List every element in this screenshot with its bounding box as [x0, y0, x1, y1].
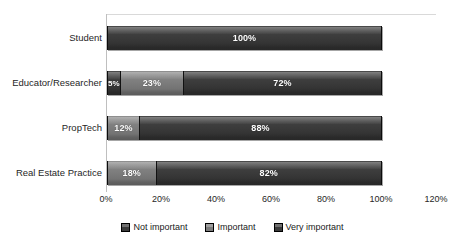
segment-value-label: 88%	[251, 123, 269, 133]
bar-track: 5%23%72%	[107, 71, 382, 95]
x-axis-tick-label: 20%	[152, 194, 170, 204]
category-axis: StudentEducator/ResearcherPropTechReal E…	[0, 14, 102, 192]
legend-swatch-icon	[205, 223, 214, 232]
bar-track: 12%88%	[107, 116, 382, 140]
bar-row: 18%82%	[107, 161, 382, 185]
category-label: Educator/Researcher	[2, 77, 102, 88]
x-axis-tick-label: 60%	[262, 194, 280, 204]
legend-label: Very important	[286, 222, 344, 232]
x-axis-tick-label: 100%	[369, 194, 392, 204]
category-label: Real Estate Practice	[2, 167, 102, 178]
legend-label: Important	[217, 222, 255, 232]
chart-legend: Not importantImportantVery important	[0, 222, 465, 232]
legend-swatch-icon	[274, 223, 283, 232]
bar-segment: 100%	[107, 26, 382, 50]
value-axis: 0%20%40%60%80%100%120%	[106, 194, 436, 208]
segment-value-label: 5%	[108, 79, 120, 88]
legend-swatch-icon	[121, 223, 130, 232]
plot-area: 100%5%23%72%12%88%18%82%	[106, 14, 436, 192]
bar-segment: 18%	[107, 161, 157, 185]
plot-top-border	[106, 14, 436, 15]
segment-value-label: 23%	[143, 78, 161, 88]
bar-row: 5%23%72%	[107, 71, 382, 95]
x-axis-tick-label: 80%	[317, 194, 335, 204]
bar-track: 18%82%	[107, 161, 382, 185]
bar-segment: 12%	[107, 116, 140, 140]
bar-segment: 5%	[107, 71, 121, 95]
bar-row: 100%	[107, 26, 382, 50]
stacked-bar-chart: StudentEducator/ResearcherPropTechReal E…	[0, 0, 465, 250]
bar-segment: 88%	[140, 116, 382, 140]
bar-row: 12%88%	[107, 116, 382, 140]
legend-item[interactable]: Very important	[274, 222, 344, 232]
segment-value-label: 100%	[233, 33, 256, 43]
segment-value-label: 72%	[273, 78, 291, 88]
legend-item[interactable]: Not important	[121, 222, 187, 232]
segment-value-label: 82%	[260, 168, 278, 178]
x-axis-tick-label: 40%	[207, 194, 225, 204]
legend-label: Not important	[133, 222, 187, 232]
segment-value-label: 18%	[123, 168, 141, 178]
category-label: Student	[2, 32, 102, 43]
bar-segment: 23%	[121, 71, 184, 95]
x-axis-tick-label: 120%	[424, 194, 447, 204]
bar-segment: 82%	[157, 161, 383, 185]
category-label: PropTech	[2, 122, 102, 133]
legend-item[interactable]: Important	[205, 222, 255, 232]
bar-track: 100%	[107, 26, 382, 50]
x-axis-tick-label: 0%	[99, 194, 112, 204]
bar-segment: 72%	[184, 71, 382, 95]
segment-value-label: 12%	[114, 123, 132, 133]
